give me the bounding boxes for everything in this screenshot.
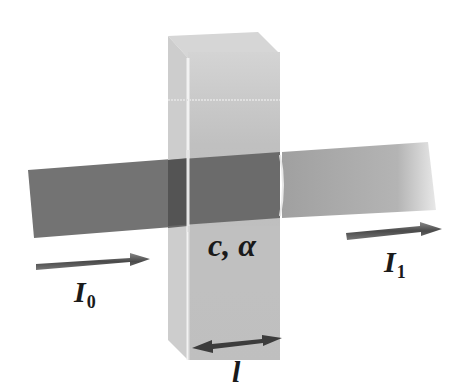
transmitted-beam: [282, 142, 436, 218]
incident-intensity-label: I0: [73, 275, 96, 312]
sample-label: c, α: [208, 227, 257, 263]
transmitted-arrow-icon: [346, 222, 442, 240]
cuvette: [168, 32, 283, 360]
beer-lambert-diagram: I0 I1 c, α l: [0, 0, 464, 391]
incident-beam: [28, 158, 185, 238]
transmitted-intensity-label: I1: [383, 245, 406, 282]
incident-arrow-icon: [36, 253, 150, 270]
path-length-label: l: [232, 355, 241, 388]
